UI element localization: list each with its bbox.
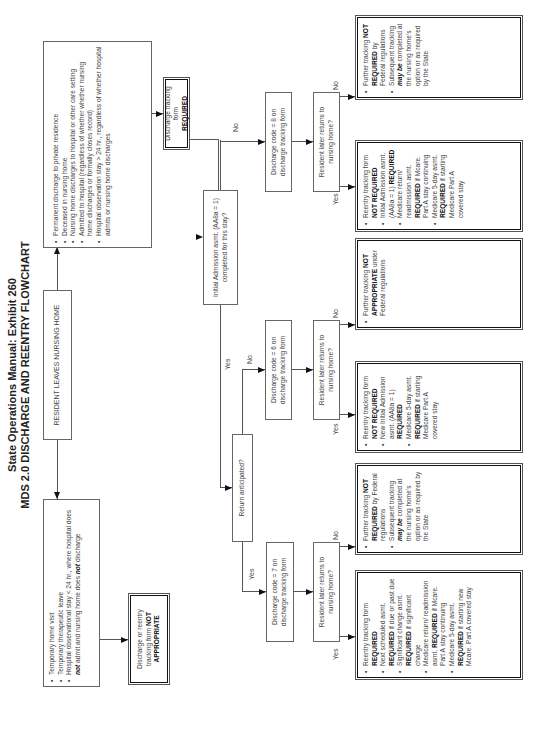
connector — [190, 139, 218, 140]
connector — [220, 434, 221, 488]
arrow-icon — [225, 485, 232, 491]
returns-question-8: Resident later returns to nursing home? — [313, 92, 340, 192]
start-label: RESIDENT LEAVES NURSING HOME — [53, 304, 62, 425]
no-label: No — [332, 309, 339, 318]
returns-question-6: Resident later returns to nursing home? — [313, 320, 340, 420]
arrow-icon — [259, 589, 266, 595]
yes-label: Yes — [332, 194, 339, 205]
start-box: RESIDENT LEAVES NURSING HOME — [43, 290, 72, 440]
yes-label: Yes — [224, 359, 231, 370]
discharge-required-box: Discharge tracking formREQUIRED — [163, 77, 190, 150]
permanent-item: Deceased in nursing home — [61, 46, 70, 236]
discharge-code-7-box: Discharge code = 7 on discharge tracking… — [266, 542, 294, 642]
permanent-item: Nursing home discharges to hospital or o… — [69, 46, 78, 236]
permanent-discharge-box: Permanent discharge to private residence… — [43, 41, 152, 248]
connector — [220, 140, 221, 190]
yes-label: Yes — [332, 649, 339, 660]
arrow-icon — [348, 544, 355, 550]
temporary-item: Temporary therapeutic leave — [57, 504, 66, 675]
arrow-icon — [348, 184, 355, 190]
arrow-icon — [348, 634, 355, 640]
temporary-item: Hospital observational stay < 24 hr., wh… — [65, 504, 82, 675]
connector — [242, 370, 243, 434]
no-label: No — [246, 355, 253, 364]
outcome-code6-no: Further tracking NOT APPROPRIATE under F… — [355, 238, 523, 330]
no-label: No — [332, 81, 339, 90]
page-title: State Operations Manual: Exhibit 260 MDS… — [6, 240, 32, 510]
temporary-leave-box: Temporary home visit Temporary therapeut… — [43, 499, 100, 687]
arrow-icon — [306, 367, 313, 373]
outcome-code7-yes: Reentry tracking form REQUIRED Next sche… — [355, 570, 523, 680]
permanent-item: Admitted to hospital (regardless of whet… — [78, 46, 95, 236]
yes-label: Yes — [332, 424, 339, 435]
arrow-icon — [196, 234, 203, 240]
return-anticipated-decision: Return anticipated? — [232, 434, 253, 542]
permanent-item: Permanent discharge to private residence — [52, 46, 61, 236]
arrow-icon — [306, 139, 313, 145]
outcome-code7-no: Further tracking NOT REQUIRED by Federal… — [355, 463, 523, 555]
arrow-icon — [54, 492, 60, 499]
returns-question-7: Resident later returns to nursing home? — [313, 542, 340, 642]
arrow-icon — [348, 322, 355, 328]
no-label: No — [332, 531, 339, 540]
connector — [242, 542, 243, 592]
discharge-code-6-box: Discharge code = 6 on discharge tracking… — [265, 320, 292, 420]
arrow-icon — [348, 412, 355, 418]
connector — [57, 440, 58, 499]
yes-label: Yes — [248, 569, 255, 580]
flowchart-canvas: State Operations Manual: Exhibit 260 MDS… — [0, 0, 537, 740]
permanent-item: Hospital observation stay > 24 hr., rega… — [95, 46, 112, 236]
temporary-item: Temporary home visit — [48, 504, 57, 675]
arrow-icon — [348, 94, 355, 100]
outcome-code8-yes: Reentry tracking form NOT REQUIRED Initi… — [355, 140, 523, 232]
outcome-code8-no: Further tracking NOT REQUIRED by Federal… — [355, 15, 523, 100]
title-line-1: State Operations Manual: Exhibit 260 — [6, 240, 19, 510]
discharge-code-8-box: Discharge code = 8 on discharge tracking… — [265, 92, 292, 192]
no-label: No — [232, 123, 239, 132]
arrow-icon — [156, 111, 163, 117]
outcome-code6-yes: Reentry tracking form NOT REQUIRED New I… — [355, 361, 523, 453]
arrow-icon — [121, 637, 128, 643]
arrow-icon — [258, 367, 265, 373]
arrow-icon — [54, 247, 60, 254]
title-line-2: MDS 2.0 DISCHARGE AND REENTRY FLOWCHART — [19, 240, 32, 510]
arrow-icon — [258, 139, 265, 145]
arrow-icon — [306, 589, 313, 595]
connector — [57, 248, 58, 290]
not-appropriate-box: Discharge or reentry tracking form NOT A… — [128, 593, 170, 685]
initial-admission-decision: Initial Admission asmt. (AA8a = 1) compl… — [203, 190, 238, 305]
connector — [220, 305, 221, 434]
